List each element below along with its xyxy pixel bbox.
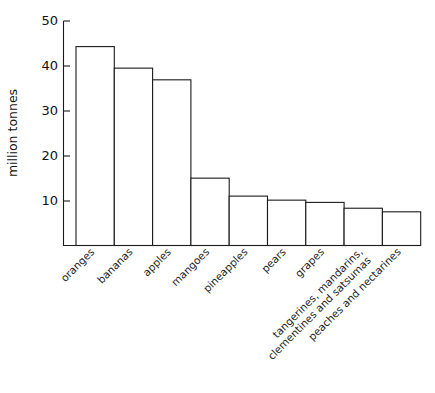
bar [229,196,267,245]
y-tick-label-10: 10 [41,193,58,208]
x-axis-category-label: bananas [95,245,135,285]
y-axis-label: million tonnes [5,89,20,177]
bar [268,200,306,245]
x-axis-category-label: oranges [58,245,96,283]
bar [114,68,152,245]
y-tick-label-30: 30 [41,103,58,118]
bar [382,212,420,246]
x-axis-category-label-line: clementines and satsumas [265,254,373,362]
bar [191,178,229,245]
bar [76,47,114,246]
x-axis-category-label: grapes [292,245,326,279]
y-tick-group: 50 40 30 20 10 [41,13,70,208]
x-axis-category-label: pears [259,245,288,274]
y-tick-label-20: 20 [41,148,58,163]
bar [306,202,344,245]
y-tick-label-40: 40 [41,58,58,73]
bar [344,208,382,245]
x-axis-category-label-line: pears [259,245,288,274]
x-axis-category-label-line: bananas [95,245,135,285]
bar-chart: million tonnes 50 40 30 20 10 orangesban… [0,0,435,393]
y-axis-label-group: million tonnes [5,89,20,177]
x-axis-category-label-line: oranges [58,245,96,283]
x-axis-category-label-line: apples [140,245,173,278]
y-tick-label-50: 50 [41,13,58,28]
x-axis-category-labels: orangesbananasapplesmangoespineapplespea… [58,245,403,362]
x-axis-category-label: apples [140,245,173,278]
bar-series [76,47,421,246]
bar [153,80,191,246]
chart-svg: million tonnes 50 40 30 20 10 orangesban… [0,0,435,393]
x-axis-category-label-line: grapes [292,245,326,279]
